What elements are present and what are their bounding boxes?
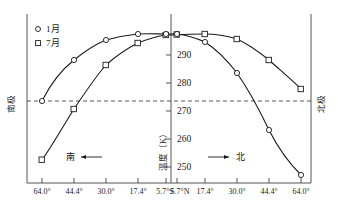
legend-label-january: 1月 xyxy=(46,24,60,34)
x-tick-label-right-1: 17.4° xyxy=(196,187,213,196)
arrow-head-left-icon xyxy=(81,155,86,159)
legend-marker-july-icon xyxy=(36,41,41,46)
left-pole-label: 南极 xyxy=(6,95,16,113)
arrow-head-right-icon xyxy=(224,155,229,159)
y-tick-label-280: 280 xyxy=(177,78,192,88)
y-axis-title: 温度（K） xyxy=(158,129,168,171)
x-tick-label-right-0: 5.7°N xyxy=(171,187,190,196)
x-tick-label-left-0: 64.0° xyxy=(33,187,50,196)
x-tick-label-right-4: 64.0° xyxy=(292,187,309,196)
x-tick-label-left-3: 17.4° xyxy=(129,187,146,196)
x-tick-label-right-2: 30.0° xyxy=(228,187,245,196)
x-tick-label-right-3: 44.4° xyxy=(260,187,277,196)
chart-canvas: 290 280 270 260 250 64.0° 44.4° 30.0° 17… xyxy=(0,0,338,212)
legend-marker-january-icon xyxy=(36,27,41,32)
y-tick-label-250: 250 xyxy=(177,162,192,172)
direction-label-south: 南 xyxy=(66,151,75,162)
direction-label-north: 北 xyxy=(236,152,245,162)
y-tick-label-290: 290 xyxy=(177,50,192,60)
legend: 1月 7月 xyxy=(36,24,60,48)
x-tick-label-left-2: 30.0° xyxy=(97,187,114,196)
temperature-latitude-chart: 290 280 270 260 250 64.0° 44.4° 30.0° 17… xyxy=(0,0,338,212)
legend-label-july: 7月 xyxy=(46,38,60,48)
right-pole-label: 北极 xyxy=(316,95,326,113)
direction-arrow-south: 南 xyxy=(66,151,103,162)
direction-arrow-north: 北 xyxy=(208,152,245,162)
y-tick-label-270: 270 xyxy=(177,106,192,116)
x-tick-label-left-1: 44.4° xyxy=(65,187,82,196)
y-tick-label-260: 260 xyxy=(177,134,192,144)
